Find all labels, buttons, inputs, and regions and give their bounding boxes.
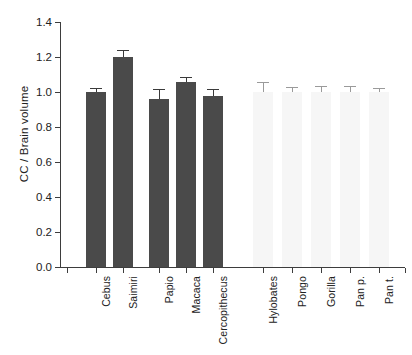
y-tick-mark <box>55 232 60 233</box>
bar <box>340 92 360 267</box>
y-tick-label: 0.6 <box>36 156 52 168</box>
y-tick-mark <box>55 127 60 128</box>
bar <box>203 96 223 268</box>
y-tick-label: 0.2 <box>36 226 52 238</box>
error-bar-cap <box>180 77 192 78</box>
error-bar-cap <box>373 88 385 89</box>
x-axis-label: Pongo <box>296 276 308 307</box>
x-tick-mark <box>123 268 124 273</box>
bar <box>113 57 133 267</box>
y-tick-mark <box>55 22 60 23</box>
y-tick-label: 0.4 <box>36 191 52 203</box>
chart-figure: CC / Brain volume 0.00.20.40.60.81.01.21… <box>0 0 412 355</box>
y-tick-mark <box>55 92 60 93</box>
y-tick-label: 1.2 <box>36 51 52 63</box>
error-bar-cap <box>207 89 219 90</box>
x-tick-mark <box>405 268 406 273</box>
bar <box>311 92 331 267</box>
x-axis-label: Gorilla <box>325 276 337 307</box>
x-axis-label: Cercopithecus <box>217 276 229 344</box>
error-bar-stem <box>123 50 124 57</box>
bar <box>253 92 273 267</box>
error-bar-cap <box>257 82 269 83</box>
bar <box>149 99 169 267</box>
x-axis-label: Saimiri <box>127 276 139 309</box>
x-axis-label: Hylobates <box>267 276 279 324</box>
error-bar-cap <box>117 50 129 51</box>
bar <box>176 82 196 268</box>
x-tick-mark <box>379 268 380 273</box>
y-tick-label: 0.8 <box>36 121 52 133</box>
y-tick-mark <box>55 267 60 268</box>
bar <box>282 92 302 267</box>
error-bar-stem <box>159 89 160 99</box>
error-bar-cap <box>90 88 102 89</box>
y-axis-title: CC / Brain volume <box>18 44 30 224</box>
x-axis-label: Pan t. <box>383 276 395 304</box>
x-axis-label: Macaca <box>190 276 202 313</box>
y-tick-label: 0.0 <box>36 261 52 273</box>
x-tick-mark <box>67 268 68 273</box>
error-bar-stem <box>263 82 264 92</box>
error-bar-cap <box>315 86 327 87</box>
y-tick-label: 1.4 <box>36 16 52 28</box>
error-bar-cap <box>153 89 165 90</box>
bar <box>86 92 106 267</box>
x-axis-line <box>60 267 405 268</box>
x-tick-mark <box>263 268 264 273</box>
x-tick-mark <box>96 268 97 273</box>
x-tick-mark <box>213 268 214 273</box>
bar <box>369 92 389 267</box>
y-tick-mark <box>55 197 60 198</box>
x-tick-mark <box>159 268 160 273</box>
y-tick-label: 1.0 <box>36 86 52 98</box>
x-tick-mark <box>292 268 293 273</box>
x-tick-mark <box>350 268 351 273</box>
x-axis-label: Pan p. <box>354 276 366 307</box>
plot-area: 0.00.20.40.60.81.01.21.4 CebusSaimiriPap… <box>60 22 405 267</box>
x-tick-mark <box>186 268 187 273</box>
y-tick-mark <box>55 57 60 58</box>
error-bar-cap <box>344 86 356 87</box>
x-axis-label: Papio <box>163 276 175 303</box>
error-bar-cap <box>286 87 298 88</box>
x-axis-label: Cebus <box>100 276 112 307</box>
x-tick-mark <box>321 268 322 273</box>
y-axis-line <box>60 22 61 268</box>
y-tick-mark <box>55 162 60 163</box>
